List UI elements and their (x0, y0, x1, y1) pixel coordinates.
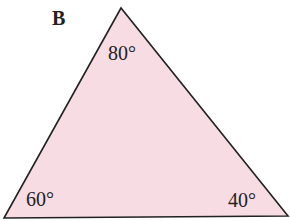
angle-bottom-left-label: 60° (26, 189, 54, 209)
triangle (4, 8, 288, 218)
angle-bottom-right-label: 40° (228, 190, 256, 210)
angle-top-label: 80° (108, 43, 136, 63)
